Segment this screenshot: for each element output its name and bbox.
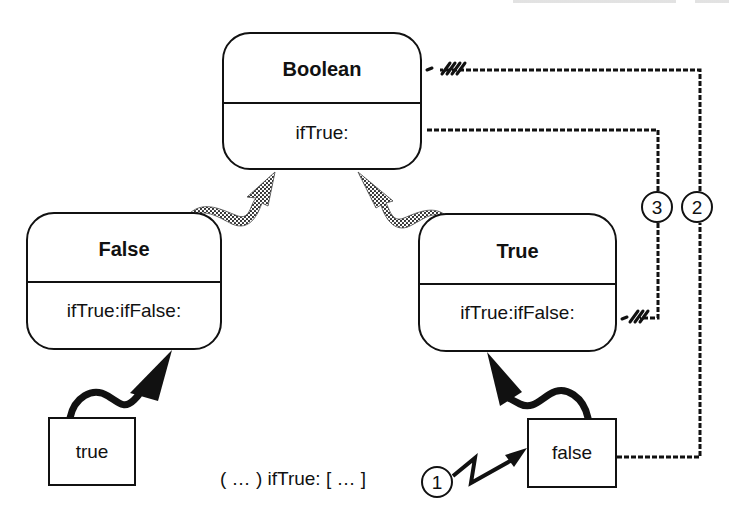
class-divider (28, 281, 220, 283)
class-name-boolean: Boolean (224, 58, 420, 81)
class-divider (224, 102, 420, 104)
step-marker-3: 3 (641, 191, 673, 223)
method-true-iftrue-iffalse: ifTrue:ifFalse: (420, 302, 615, 324)
instance-label-true: true (76, 441, 109, 463)
class-box-true: True ifTrue:ifFalse: (418, 213, 617, 352)
class-name-false: False (28, 238, 220, 261)
lookup-line-step-2-tail (427, 63, 465, 74)
method-boolean-iftrue: ifTrue: (224, 122, 420, 144)
instance-box-true: true (48, 417, 136, 486)
step-number: 2 (692, 198, 703, 217)
message-arrow-step-1 (453, 448, 527, 483)
call-line-step-3-head (622, 311, 648, 322)
class-name-true: True (420, 240, 615, 263)
step-number: 1 (432, 473, 443, 492)
step-number: 3 (652, 198, 663, 217)
step-marker-1: 1 (421, 466, 453, 498)
instance-label-false: false (552, 442, 592, 464)
class-box-boolean: Boolean ifTrue: (222, 32, 422, 170)
method-false-iftrue-iffalse: ifTrue:ifFalse: (28, 300, 220, 322)
step-marker-2: 2 (681, 191, 713, 223)
instance-arrow-false-to-true (487, 352, 588, 418)
instance-arrow-true-to-false (70, 350, 172, 418)
message-expression: ( … ) ifTrue: [ … ] (220, 468, 366, 490)
class-divider (420, 283, 615, 285)
instance-box-false: false (527, 418, 617, 488)
class-box-false: False ifTrue:ifFalse: (26, 212, 222, 350)
